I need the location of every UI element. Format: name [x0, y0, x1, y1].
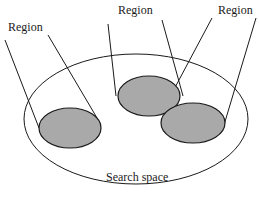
region-middle-label: Region	[118, 4, 153, 16]
region-right-label: Region	[218, 4, 253, 16]
leader-line-right-b	[224, 18, 256, 125]
search-space-label: Search space	[106, 171, 168, 183]
leader-line-middle-a	[108, 24, 116, 96]
region-right-ellipse	[161, 103, 225, 143]
region-left-label: Region	[8, 21, 43, 33]
leader-line-left-a	[5, 40, 39, 128]
region-left-ellipse	[39, 108, 101, 148]
